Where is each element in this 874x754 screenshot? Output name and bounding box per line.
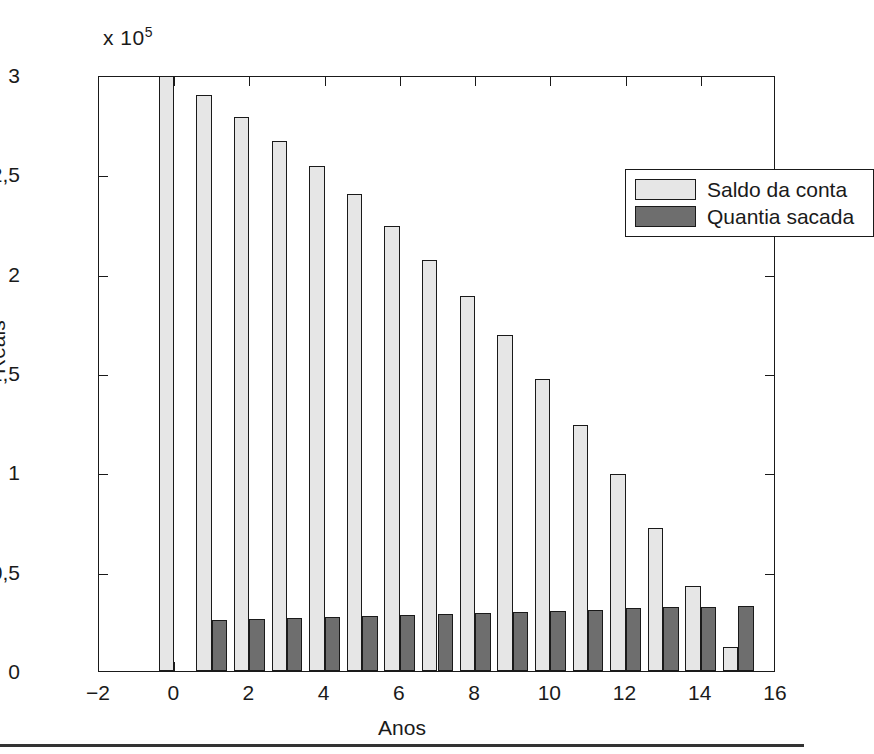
x-axis-tick-mark: [249, 77, 250, 86]
bar-quantia-sacada: [212, 620, 227, 671]
bar-saldo-da-conta: [384, 226, 399, 671]
legend-label-saldo-da-conta: Saldo da conta: [707, 179, 847, 200]
y-axis-exponent-label: x 105: [103, 26, 153, 50]
y-axis-tick-mark: [765, 375, 774, 376]
x-axis-tick-label: 8: [468, 681, 480, 705]
bar-saldo-da-conta: [723, 647, 738, 671]
y-axis-tick-label: 3: [8, 64, 20, 88]
bar-quantia-sacada: [663, 607, 678, 671]
x-axis-tick-mark: [701, 77, 702, 86]
x-axis-tick-label: 4: [318, 681, 330, 705]
bar-quantia-sacada: [475, 613, 490, 671]
y-axis-tick-label: 2: [8, 263, 20, 287]
y-axis-tick-mark: [99, 176, 108, 177]
bar-quantia-sacada: [400, 615, 415, 671]
x-axis-tick-label: 10: [538, 681, 561, 705]
legend-item-quantia-sacada: Quantia sacada: [635, 204, 864, 228]
bar-quantia-sacada: [626, 608, 641, 671]
y-axis-tick-mark: [99, 474, 108, 475]
x-axis-tick-label: 0: [167, 681, 179, 705]
x-axis-tick-mark: [174, 77, 175, 86]
y-axis-tick-mark: [765, 276, 774, 277]
x-axis-tick-label: 12: [613, 681, 636, 705]
x-axis-tick-label: −2: [86, 681, 110, 705]
y-axis-title: Reais: [0, 320, 10, 374]
bar-saldo-da-conta: [648, 528, 663, 671]
y-axis-tick-label: 2,5: [0, 163, 20, 187]
bar-saldo-da-conta: [610, 474, 625, 671]
bar-saldo-da-conta: [535, 379, 550, 671]
x-axis-tick-mark: [550, 77, 551, 86]
y-axis-tick-mark: [99, 375, 108, 376]
bar-quantia-sacada: [738, 606, 753, 671]
bar-quantia-sacada: [550, 611, 565, 671]
x-axis-tick-label: 2: [243, 681, 255, 705]
legend-swatch-saldo-da-conta: [635, 179, 696, 200]
bar-quantia-sacada: [438, 614, 453, 671]
bar-saldo-da-conta: [272, 141, 287, 671]
bars-layer: [99, 77, 774, 671]
x-axis-tick-mark: [400, 77, 401, 86]
bar-saldo-da-conta: [196, 95, 211, 671]
bar-quantia-sacada: [325, 617, 340, 671]
y-axis-tick-mark: [765, 474, 774, 475]
chart-legend: Saldo da conta Quantia sacada: [625, 169, 874, 237]
x-axis-tick-label: 6: [393, 681, 405, 705]
bar-quantia-sacada: [513, 612, 528, 671]
bar-quantia-sacada: [588, 610, 603, 671]
legend-item-saldo-da-conta: Saldo da conta: [635, 177, 864, 201]
bar-saldo-da-conta: [460, 296, 475, 671]
plot-area: Saldo da conta Quantia sacada: [98, 76, 775, 672]
x-axis-tick-label: 16: [763, 681, 786, 705]
legend-swatch-quantia-sacada: [635, 206, 696, 227]
bar-saldo-da-conta: [309, 166, 324, 671]
y-axis-exponent-base: x 10: [103, 26, 145, 49]
bar-quantia-sacada: [249, 619, 264, 671]
y-axis-exponent-power: 5: [145, 24, 153, 40]
y-axis-tick-label: 0: [8, 660, 20, 684]
x-axis-tick-mark: [475, 77, 476, 86]
bar-saldo-da-conta: [422, 260, 437, 671]
x-axis-tick-label: 14: [688, 681, 711, 705]
bar-saldo-da-conta: [497, 335, 512, 671]
x-axis-title: Anos: [0, 716, 804, 740]
y-axis-tick-mark: [99, 276, 108, 277]
bar-saldo-da-conta: [159, 77, 174, 671]
x-axis-tick-mark: [174, 662, 175, 671]
legend-label-quantia-sacada: Quantia sacada: [707, 206, 854, 227]
y-axis-tick-mark: [765, 574, 774, 575]
bar-quantia-sacada: [701, 607, 716, 671]
x-axis-tick-mark: [626, 77, 627, 86]
y-axis-tick-label: 0,5: [0, 561, 20, 585]
bar-quantia-sacada: [287, 618, 302, 671]
bar-saldo-da-conta: [234, 117, 249, 671]
y-axis-tick-mark: [99, 574, 108, 575]
bar-saldo-da-conta: [347, 194, 362, 671]
y-axis-tick-label: 1: [8, 461, 20, 485]
bar-saldo-da-conta: [685, 586, 700, 671]
page-divider-rule: [0, 744, 804, 747]
bar-quantia-sacada: [362, 616, 377, 671]
x-axis-tick-mark: [325, 77, 326, 86]
bar-saldo-da-conta: [573, 425, 588, 671]
